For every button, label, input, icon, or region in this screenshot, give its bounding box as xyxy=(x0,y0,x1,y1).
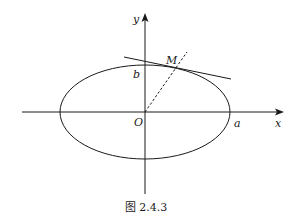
b-label: b xyxy=(133,68,140,81)
x-axis-label: x xyxy=(275,117,282,130)
origin-label: O xyxy=(134,116,143,129)
x-axis xyxy=(22,109,284,116)
point-M-label: M xyxy=(165,54,178,67)
tangent-line xyxy=(124,57,231,79)
y-axis-label: y xyxy=(132,13,140,26)
figure-caption: 图 2.4.3 xyxy=(125,201,168,214)
y-axis xyxy=(142,13,149,194)
ellipse-tangent-diagram: y M b O a x 图 2.4.3 xyxy=(0,0,297,224)
a-label: a xyxy=(234,117,241,130)
